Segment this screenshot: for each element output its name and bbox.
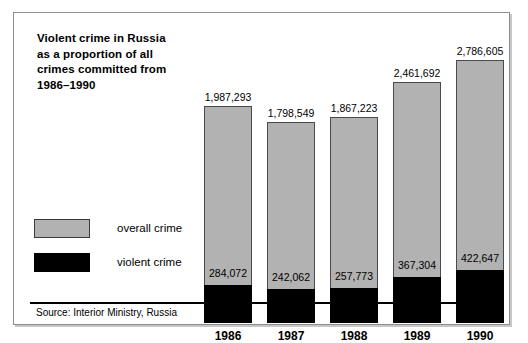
bar-violent-1986 [204,285,252,323]
x-axis-baseline [30,302,493,304]
bar-group-1988: 1,867,223 257,773 1988 [330,34,378,324]
bar-overall-1989: 367,304 [393,82,441,323]
x-axis-label-1987: 1987 [278,329,305,343]
bar-group-1987: 1,798,549 242,062 1987 [267,34,315,324]
x-axis-label-1989: 1989 [404,329,431,343]
bar-overall-1986: 284,072 [204,106,252,323]
bar-violent-label-1988: 257,773 [335,270,373,282]
bar-series-container: 1,987,293 284,072 1986 1,798,549 242,062… [14,13,509,324]
bar-total-label-1986: 1,987,293 [205,91,252,103]
bar-group-1986: 1,987,293 284,072 1986 [204,34,252,324]
bar-total-label-1989: 2,461,692 [394,67,441,79]
bar-violent-label-1990: 422,647 [461,252,499,264]
bar-total-label-1990: 2,786,605 [457,45,504,57]
x-axis-label-1990: 1990 [467,329,494,343]
bar-group-1990: 2,786,605 422,647 1990 [456,34,504,324]
bar-violent-label-1987: 242,062 [272,271,310,283]
bar-violent-1989 [393,277,441,323]
bar-violent-1990 [456,270,504,323]
bar-violent-1988 [330,288,378,323]
bar-total-label-1987: 1,798,549 [268,107,315,119]
bar-violent-label-1986: 284,072 [209,267,247,279]
x-axis-label-1986: 1986 [215,329,242,343]
chart-plot-area: Violent crime in Russia as a proportion … [14,13,509,324]
bar-overall-1990: 422,647 [456,60,504,323]
source-note: Source: Interior Ministry, Russia [36,307,177,318]
bar-overall-1988: 257,773 [330,117,378,323]
bar-total-label-1988: 1,867,223 [331,102,378,114]
chart-figure: Violent crime in Russia as a proportion … [13,12,510,325]
x-axis-label-1988: 1988 [341,329,368,343]
bar-violent-1987 [267,289,315,323]
bar-overall-1987: 242,062 [267,122,315,323]
bar-group-1989: 2,461,692 367,304 1989 [393,34,441,324]
bar-violent-label-1989: 367,304 [398,259,436,271]
